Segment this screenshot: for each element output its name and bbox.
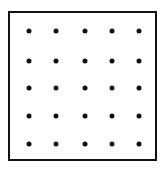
grid-dot [83, 29, 88, 34]
grid-dot [27, 59, 32, 64]
grid-dot [83, 142, 88, 147]
grid-dot [27, 29, 32, 34]
grid-dot [137, 114, 142, 119]
grid-dot [110, 59, 115, 64]
grid-dot [137, 142, 142, 147]
grid-dot [110, 142, 115, 147]
grid-dot [27, 142, 32, 147]
grid-dot [110, 114, 115, 119]
grid-dot [27, 86, 32, 91]
grid-dot [110, 86, 115, 91]
grid-dot [83, 114, 88, 119]
grid-dot [83, 59, 88, 64]
grid-dot [54, 86, 59, 91]
grid-dot [54, 59, 59, 64]
grid-dot [54, 142, 59, 147]
grid-dot [137, 59, 142, 64]
grid-dot [54, 29, 59, 34]
grid-dot [137, 29, 142, 34]
grid-dot [54, 114, 59, 119]
grid-dot [83, 86, 88, 91]
grid-dot [110, 29, 115, 34]
grid-dot [137, 86, 142, 91]
grid-dot [27, 114, 32, 119]
